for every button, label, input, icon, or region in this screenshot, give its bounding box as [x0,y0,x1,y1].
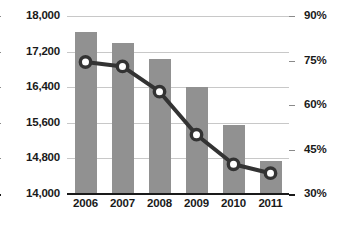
data-point-marker [191,130,201,140]
left-axis-tick-label: 14,800 [26,152,60,164]
data-point-marker [265,168,275,178]
category-label: 2008 [140,198,180,210]
trend-line [86,62,271,173]
right-axis-tick-label: 30% [304,188,326,200]
chart-container: 18,00017,20016,40015,60014,80014,000 200… [0,0,344,242]
left-axis-tick-mark [0,16,1,17]
left-axis-tick-label: 14,000 [26,188,60,200]
plot-area: 200620072008200920102011 [67,16,289,194]
left-axis-tick-mark [0,158,1,159]
left-axis-tick-label: 18,000 [26,10,60,22]
left-axis-tick-mark [0,123,1,124]
left-axis-tick-label: 16,400 [26,81,60,93]
left-axis-tick-mark [0,52,1,53]
category-label: 2009 [177,198,217,210]
left-axis-tick-mark [0,87,1,88]
right-axis-tick-mark [289,150,295,151]
category-axis-labels: 200620072008200920102011 [67,198,289,218]
left-axis-tick-label: 15,600 [26,117,60,129]
right-percent-axis: 90%75%60%45%30% [296,0,344,242]
right-axis-tick-label: 60% [304,99,326,111]
data-point-marker [228,159,238,169]
right-axis-tick-label: 75% [304,55,326,67]
data-point-marker [117,61,127,71]
right-axis-tick-mark [289,105,295,106]
left-axis-tick-label: 17,200 [26,46,60,58]
right-axis-tick-mark [289,61,295,62]
left-axis-tick-mark [0,194,1,196]
left-value-axis: 18,00017,20016,40015,60014,80014,000 [2,0,60,242]
right-axis-tick-label: 90% [304,10,326,22]
right-axis-tick-label: 45% [304,144,326,156]
category-axis-line [67,193,289,195]
line-series-percent [67,16,289,194]
right-axis-tick-mark [289,194,295,196]
category-label: 2006 [66,198,106,210]
data-point-marker [154,87,164,97]
data-point-marker [80,57,90,67]
right-axis-tick-mark [289,16,295,17]
category-label: 2010 [214,198,254,210]
category-label: 2011 [251,198,291,210]
category-label: 2007 [103,198,143,210]
